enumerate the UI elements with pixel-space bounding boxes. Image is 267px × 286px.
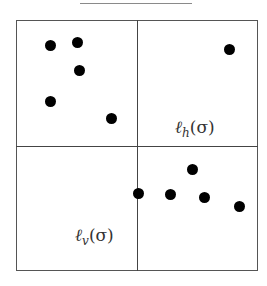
- sigma-arg: (σ): [190, 117, 215, 137]
- point-dot: [165, 189, 176, 200]
- point-dot: [106, 113, 117, 124]
- point-dot: [45, 96, 56, 107]
- subscript-h: h: [182, 126, 190, 140]
- point-dot: [199, 192, 210, 203]
- point-dot: [133, 188, 144, 199]
- caption-underline: [80, 3, 192, 4]
- subscript-v: v: [82, 234, 89, 248]
- sigma-arg: (σ): [89, 225, 114, 245]
- point-dot: [74, 65, 85, 76]
- point-dot: [234, 201, 245, 212]
- point-dot: [45, 40, 56, 51]
- point-dot: [187, 164, 198, 175]
- point-dot: [224, 44, 235, 55]
- label-ell-v: ℓv(σ): [75, 227, 114, 244]
- label-ell-h: ℓh(σ): [175, 119, 215, 136]
- horizontal-divider: [16, 146, 258, 147]
- point-dot: [72, 37, 83, 48]
- caption-cropped: [80, 0, 192, 2]
